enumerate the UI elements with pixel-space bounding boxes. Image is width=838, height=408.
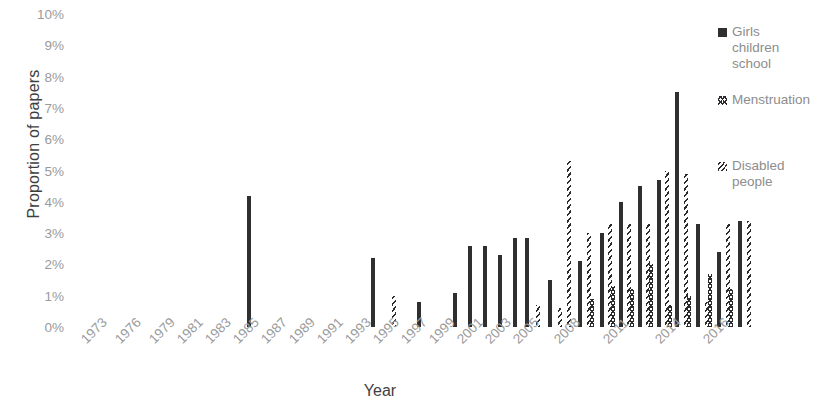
legend-swatch-icon xyxy=(718,96,727,105)
y-tick-label: 10% xyxy=(14,7,64,22)
bar xyxy=(468,246,472,327)
y-tick-label: 8% xyxy=(14,69,64,84)
y-tick-label: 6% xyxy=(14,132,64,147)
bar xyxy=(657,180,661,327)
bar xyxy=(708,274,712,327)
bar xyxy=(536,305,540,327)
bar xyxy=(665,171,669,328)
y-tick-label: 7% xyxy=(14,100,64,115)
bar xyxy=(567,161,571,327)
y-tick-label: 3% xyxy=(14,226,64,241)
legend-item[interactable]: Disabled people xyxy=(718,158,785,190)
bar xyxy=(696,224,700,327)
y-tick-label: 4% xyxy=(14,194,64,209)
bar-chart-figure: Proportion of papers 0%1%2%3%4%5%6%7%8%9… xyxy=(0,0,838,408)
bar xyxy=(600,233,604,327)
bar xyxy=(729,289,733,327)
bar xyxy=(675,92,679,327)
bar xyxy=(717,252,721,327)
bar xyxy=(548,280,552,327)
legend-label: Girls children school xyxy=(732,24,779,72)
bar xyxy=(247,196,251,327)
bar xyxy=(392,296,396,327)
x-axis-title: Year xyxy=(0,382,760,400)
bar xyxy=(513,238,517,327)
legend-item[interactable]: Girls children school xyxy=(718,24,779,72)
y-tick-label: 1% xyxy=(14,288,64,303)
bar xyxy=(687,296,691,327)
y-tick-label: 2% xyxy=(14,257,64,272)
bar xyxy=(417,302,421,327)
bar xyxy=(649,264,653,327)
y-tick-label: 5% xyxy=(14,163,64,178)
bar xyxy=(371,258,375,327)
bar xyxy=(611,286,615,327)
bar xyxy=(578,261,582,327)
bar xyxy=(747,221,751,327)
bar xyxy=(638,186,642,327)
bar xyxy=(498,255,502,327)
bar xyxy=(630,289,634,327)
legend-label: Disabled people xyxy=(732,158,785,190)
legend-swatch-icon xyxy=(718,162,727,171)
bar xyxy=(525,238,529,327)
y-tick-label: 0% xyxy=(14,320,64,335)
legend-item[interactable]: Menstruation xyxy=(718,92,810,108)
bar xyxy=(668,305,672,327)
bar xyxy=(619,202,623,327)
bar xyxy=(558,308,562,327)
bar xyxy=(590,299,594,327)
legend-label: Menstruation xyxy=(732,92,810,108)
plot-area xyxy=(68,14,708,327)
bar xyxy=(738,221,742,327)
y-axis-tick-labels: 0%1%2%3%4%5%6%7%8%9%10% xyxy=(14,0,64,340)
legend-swatch-icon xyxy=(718,28,727,37)
bar xyxy=(453,293,457,327)
bar xyxy=(483,246,487,327)
y-tick-label: 9% xyxy=(14,38,64,53)
